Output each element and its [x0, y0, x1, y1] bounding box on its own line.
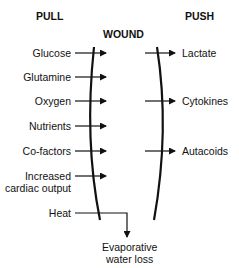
- pull-label-cardiac-output: cardiac output: [5, 182, 71, 194]
- pull-label-cofactors: Co-factors: [23, 145, 71, 157]
- outcome-evaporative: Evaporative: [102, 241, 157, 253]
- wound-diagram: [0, 0, 239, 268]
- push-label-autacoids: Autacoids: [182, 145, 228, 157]
- outcome-water-loss: water loss: [106, 253, 153, 265]
- pull-label-oxygen: Oxygen: [35, 95, 71, 107]
- wound-left-boundary: [90, 47, 100, 220]
- push-label-lactate: Lactate: [182, 47, 216, 59]
- heat-arrow: [75, 213, 127, 237]
- pull-label-increased: Increased: [25, 170, 71, 182]
- pull-label-nutrients: Nutrients: [29, 120, 71, 132]
- pull-label-glutamine: Glutamine: [23, 71, 71, 83]
- wound-right-boundary: [154, 47, 163, 220]
- pull-label-glucose: Glucose: [32, 47, 71, 59]
- push-label-cytokines: Cytokines: [182, 95, 228, 107]
- pull-label-heat: Heat: [49, 207, 71, 219]
